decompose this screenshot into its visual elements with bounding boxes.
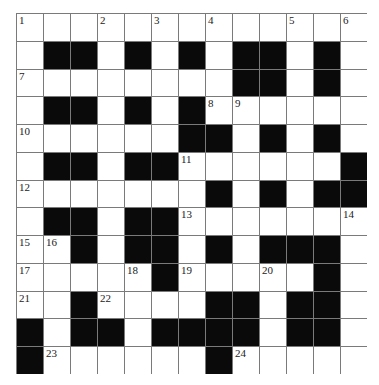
answer-cell[interactable] (340, 235, 367, 263)
answer-cell[interactable]: 6 (340, 13, 367, 41)
answer-cell[interactable] (70, 69, 97, 97)
answer-cell[interactable] (43, 13, 70, 41)
answer-cell[interactable] (97, 235, 124, 263)
answer-cell[interactable] (16, 41, 43, 69)
answer-cell[interactable] (313, 346, 340, 374)
answer-cell[interactable] (151, 180, 178, 208)
answer-cell[interactable] (313, 13, 340, 41)
answer-cell[interactable] (286, 96, 313, 124)
answer-cell[interactable] (178, 346, 205, 374)
answer-cell[interactable] (70, 13, 97, 41)
answer-cell[interactable] (97, 152, 124, 180)
answer-cell[interactable] (205, 207, 232, 235)
answer-cell[interactable] (124, 13, 151, 41)
answer-cell[interactable] (286, 207, 313, 235)
answer-cell[interactable] (16, 207, 43, 235)
answer-cell[interactable]: 19 (178, 263, 205, 291)
answer-cell[interactable]: 15 (16, 235, 43, 263)
answer-cell[interactable]: 14 (340, 207, 367, 235)
answer-cell[interactable] (43, 291, 70, 319)
answer-cell[interactable] (259, 152, 286, 180)
answer-cell[interactable] (178, 13, 205, 41)
answer-cell[interactable] (43, 124, 70, 152)
answer-cell[interactable]: 7 (16, 69, 43, 97)
answer-cell[interactable]: 3 (151, 13, 178, 41)
answer-cell[interactable] (97, 207, 124, 235)
answer-cell[interactable]: 11 (178, 152, 205, 180)
answer-cell[interactable] (259, 207, 286, 235)
answer-cell[interactable] (313, 207, 340, 235)
answer-cell[interactable] (43, 69, 70, 97)
answer-cell[interactable] (259, 346, 286, 374)
answer-cell[interactable] (313, 96, 340, 124)
answer-cell[interactable]: 8 (205, 96, 232, 124)
answer-cell[interactable] (286, 124, 313, 152)
answer-cell[interactable] (340, 291, 367, 319)
answer-cell[interactable] (43, 318, 70, 346)
answer-cell[interactable] (205, 41, 232, 69)
answer-cell[interactable] (178, 69, 205, 97)
answer-cell[interactable] (232, 180, 259, 208)
answer-cell[interactable]: 2 (97, 13, 124, 41)
answer-cell[interactable] (286, 346, 313, 374)
answer-cell[interactable] (232, 207, 259, 235)
answer-cell[interactable] (232, 263, 259, 291)
answer-cell[interactable] (124, 180, 151, 208)
answer-cell[interactable] (124, 318, 151, 346)
answer-cell[interactable] (151, 96, 178, 124)
answer-cell[interactable] (97, 41, 124, 69)
answer-cell[interactable] (16, 152, 43, 180)
answer-cell[interactable]: 20 (259, 263, 286, 291)
answer-cell[interactable] (313, 152, 340, 180)
answer-cell[interactable] (232, 235, 259, 263)
answer-cell[interactable] (43, 263, 70, 291)
answer-cell[interactable] (205, 69, 232, 97)
answer-cell[interactable] (178, 291, 205, 319)
answer-cell[interactable] (286, 180, 313, 208)
answer-cell[interactable] (205, 152, 232, 180)
answer-cell[interactable] (97, 124, 124, 152)
answer-cell[interactable]: 24 (232, 346, 259, 374)
answer-cell[interactable] (340, 69, 367, 97)
answer-cell[interactable]: 16 (43, 235, 70, 263)
answer-cell[interactable] (286, 152, 313, 180)
answer-cell[interactable] (178, 235, 205, 263)
answer-cell[interactable] (43, 180, 70, 208)
answer-cell[interactable] (151, 41, 178, 69)
answer-cell[interactable] (232, 13, 259, 41)
answer-cell[interactable] (232, 152, 259, 180)
answer-cell[interactable] (16, 96, 43, 124)
answer-cell[interactable] (97, 346, 124, 374)
answer-cell[interactable]: 12 (16, 180, 43, 208)
answer-cell[interactable] (178, 180, 205, 208)
answer-cell[interactable] (259, 96, 286, 124)
answer-cell[interactable] (340, 263, 367, 291)
answer-cell[interactable] (124, 124, 151, 152)
answer-cell[interactable] (97, 96, 124, 124)
answer-cell[interactable] (205, 263, 232, 291)
answer-cell[interactable] (259, 318, 286, 346)
answer-cell[interactable]: 13 (178, 207, 205, 235)
answer-cell[interactable] (340, 346, 367, 374)
answer-cell[interactable] (70, 180, 97, 208)
answer-cell[interactable] (151, 346, 178, 374)
answer-cell[interactable] (340, 96, 367, 124)
answer-cell[interactable]: 4 (205, 13, 232, 41)
answer-cell[interactable] (232, 124, 259, 152)
answer-cell[interactable]: 10 (16, 124, 43, 152)
answer-cell[interactable]: 5 (286, 13, 313, 41)
answer-cell[interactable] (97, 69, 124, 97)
answer-cell[interactable]: 1 (16, 13, 43, 41)
answer-cell[interactable] (124, 69, 151, 97)
answer-cell[interactable] (340, 318, 367, 346)
answer-cell[interactable] (151, 291, 178, 319)
answer-cell[interactable]: 9 (232, 96, 259, 124)
answer-cell[interactable]: 18 (124, 263, 151, 291)
answer-cell[interactable] (97, 263, 124, 291)
answer-cell[interactable] (151, 69, 178, 97)
answer-cell[interactable] (151, 124, 178, 152)
answer-cell[interactable] (97, 180, 124, 208)
answer-cell[interactable] (340, 41, 367, 69)
answer-cell[interactable] (286, 69, 313, 97)
answer-cell[interactable] (286, 41, 313, 69)
